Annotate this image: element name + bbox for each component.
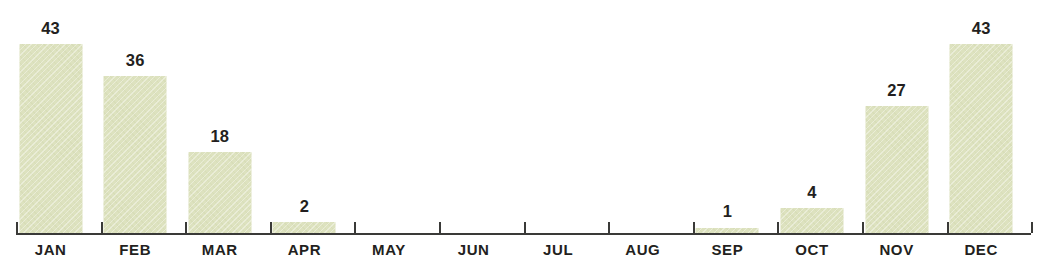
axis-label-jul: JUL <box>516 239 601 261</box>
value-label: 36 <box>126 52 145 69</box>
x-axis-line <box>16 233 1031 235</box>
bar[interactable] <box>780 208 843 233</box>
bar[interactable] <box>865 106 928 233</box>
bar-group-oct[interactable]: 4 <box>770 0 855 235</box>
axis-label-dec: DEC <box>939 239 1024 261</box>
axis-tick <box>608 222 610 233</box>
bar-group-feb[interactable]: 36 <box>93 0 178 235</box>
axis-label-jun: JUN <box>431 239 516 261</box>
axis-tick <box>524 222 526 233</box>
axis-label-mar: MAR <box>178 239 263 261</box>
axis-label-oct: OCT <box>770 239 855 261</box>
value-label: 4 <box>807 184 816 201</box>
axis-tick <box>101 222 103 233</box>
value-label: 27 <box>887 82 906 99</box>
value-label: 2 <box>300 198 309 215</box>
bar[interactable] <box>19 44 82 233</box>
bar-group-apr[interactable]: 2 <box>262 0 347 235</box>
bar-group-may[interactable] <box>347 0 432 235</box>
axis-tick <box>693 222 695 233</box>
axis-tick <box>439 222 441 233</box>
axis-tick <box>862 222 864 233</box>
bar-group-dec[interactable]: 43 <box>939 0 1024 235</box>
axis-tick <box>777 222 779 233</box>
value-label: 43 <box>41 20 60 37</box>
axis-label-nov: NOV <box>854 239 939 261</box>
axis-label-aug: AUG <box>601 239 686 261</box>
bar[interactable] <box>104 76 167 233</box>
bar-group-mar[interactable]: 18 <box>178 0 263 235</box>
x-axis-labels: JAN FEB MAR APR MAY JUN JUL AUG SEP OCT … <box>0 239 1047 269</box>
axis-label-sep: SEP <box>685 239 770 261</box>
axis-label-jan: JAN <box>8 239 93 261</box>
axis-label-apr: APR <box>262 239 347 261</box>
axis-tick <box>354 222 356 233</box>
bar[interactable] <box>273 222 336 233</box>
bar-group-jun[interactable] <box>431 0 516 235</box>
bar-group-jul[interactable] <box>516 0 601 235</box>
bar[interactable] <box>950 44 1013 233</box>
axis-tick <box>185 222 187 233</box>
bar-chart: 43 36 18 2 <box>0 0 1047 275</box>
value-label: 18 <box>210 128 229 145</box>
bar-group-sep[interactable]: 1 <box>685 0 770 235</box>
axis-tick <box>270 222 272 233</box>
axis-tick <box>947 222 949 233</box>
value-label: 43 <box>972 20 991 37</box>
value-label: 1 <box>723 203 732 220</box>
axis-label-feb: FEB <box>93 239 178 261</box>
axis-tick <box>16 222 18 233</box>
axis-label-may: MAY <box>347 239 432 261</box>
axis-tick <box>1031 222 1033 233</box>
bar-group-nov[interactable]: 27 <box>854 0 939 235</box>
bar[interactable] <box>188 152 251 233</box>
plot-area: 43 36 18 2 <box>0 0 1047 235</box>
bar-group-aug[interactable] <box>601 0 686 235</box>
bar-group-jan[interactable]: 43 <box>8 0 93 235</box>
